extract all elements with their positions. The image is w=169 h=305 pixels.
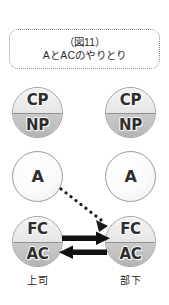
ego-label-cp-subordinate: CP	[120, 93, 141, 108]
ego-state-diagram: （図11） AとACのやりとり CP NP CP NP A A FC AC	[0, 0, 169, 305]
ego-label-ac-subordinate: AC	[119, 247, 141, 262]
ego-label-cp-boss: CP	[27, 93, 48, 108]
figure-title: AとACのやりとり	[43, 49, 126, 62]
ego-label-fc-subordinate: FC	[120, 222, 141, 237]
ego-label-a-subordinate: A	[124, 169, 136, 185]
compartment-fc-boss: FC	[13, 217, 62, 242]
role-label-boss: 上司	[12, 272, 63, 287]
figure-number: （図11）	[64, 36, 106, 49]
ego-label-np-subordinate: NP	[119, 118, 142, 133]
compartment-cp-boss: CP	[13, 88, 62, 113]
compartment-np-subordinate: NP	[106, 113, 155, 138]
compartment-np-boss: NP	[13, 113, 62, 138]
ego-circle-subordinate-fc-ac: FC AC	[105, 216, 156, 267]
ego-circle-boss-a: A	[12, 151, 63, 202]
solid-arrow-right-icon	[62, 232, 110, 246]
compartment-ac-boss: AC	[13, 242, 62, 267]
crossed-dotted-arrow-icon	[61, 189, 108, 232]
ego-label-np-boss: NP	[26, 118, 49, 133]
role-label-subordinate: 部下	[105, 272, 156, 287]
figure-title-box: （図11） AとACのやりとり	[9, 29, 160, 69]
ego-label-fc-boss: FC	[27, 222, 48, 237]
ego-circle-subordinate-cp-np: CP NP	[105, 87, 156, 138]
compartment-fc-subordinate: FC	[106, 217, 155, 242]
ego-circle-boss-cp-np: CP NP	[12, 87, 63, 138]
ego-label-ac-boss: AC	[26, 247, 48, 262]
compartment-cp-subordinate: CP	[106, 88, 155, 113]
compartment-ac-subordinate: AC	[106, 242, 155, 267]
ego-circle-boss-fc-ac: FC AC	[12, 216, 63, 267]
ego-circle-subordinate-a: A	[105, 151, 156, 202]
ego-label-a-boss: A	[31, 169, 43, 185]
solid-arrow-left-icon	[59, 246, 107, 260]
